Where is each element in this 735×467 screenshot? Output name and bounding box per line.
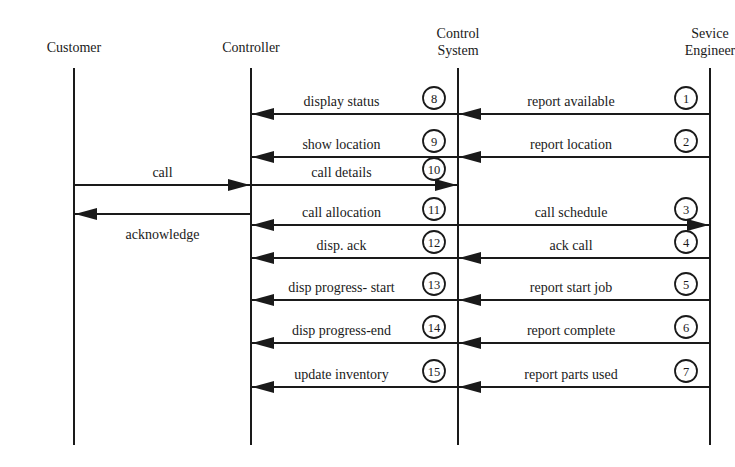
step-number: 8 <box>431 92 437 106</box>
arrowhead-icon <box>435 179 457 191</box>
message-label: report location <box>530 137 612 152</box>
arrowhead-icon <box>459 381 481 393</box>
message-label: show location <box>302 137 380 152</box>
arrowhead-icon <box>252 151 274 163</box>
message-label: ack call <box>549 238 592 253</box>
step-number: 4 <box>683 236 690 250</box>
message-label: acknowledge <box>126 227 200 242</box>
message-call: call <box>74 165 251 191</box>
actor-label-control_system: System <box>437 43 478 58</box>
message-label: disp progress- start <box>288 280 395 295</box>
message-11: call allocation11 <box>251 198 458 231</box>
message-15: update inventory15 <box>251 360 458 393</box>
step-number: 3 <box>683 203 689 217</box>
message-label: call allocation <box>302 205 381 220</box>
step-number: 14 <box>428 321 441 335</box>
arrowhead-icon <box>252 219 274 231</box>
message-label: report parts used <box>524 367 617 382</box>
message-10: call details10 <box>251 158 458 191</box>
arrowhead-icon <box>75 208 97 220</box>
step-number: 2 <box>683 135 689 149</box>
messages-layer: report available1report location2call sc… <box>74 87 710 393</box>
arrowhead-icon <box>252 381 274 393</box>
actor-label-controller: Controller <box>222 40 280 55</box>
arrowhead-icon <box>228 179 250 191</box>
message-acknowledge: acknowledge <box>74 208 251 242</box>
message-label: report start job <box>530 280 612 295</box>
actor-label-service_engineer: Sevice <box>691 26 728 41</box>
message-2: report location2 <box>458 130 710 163</box>
message-5: report start job5 <box>458 273 710 306</box>
message-9: show location9 <box>251 130 458 163</box>
message-label: call <box>152 165 172 180</box>
message-8: display status8 <box>251 87 458 120</box>
message-label: update inventory <box>294 367 388 382</box>
actor-label-service_engineer: Engineer <box>685 43 735 58</box>
step-number: 7 <box>683 365 689 379</box>
message-6: report complete6 <box>458 316 710 349</box>
arrowhead-icon <box>252 337 274 349</box>
step-number: 9 <box>431 135 437 149</box>
step-number: 12 <box>428 236 441 250</box>
step-number: 13 <box>428 278 441 292</box>
message-label: call details <box>311 165 371 180</box>
message-label: report available <box>527 94 614 109</box>
step-number: 11 <box>428 203 440 217</box>
message-label: display status <box>304 94 380 109</box>
arrowhead-icon <box>459 108 481 120</box>
step-number: 10 <box>428 163 441 177</box>
arrowhead-icon <box>252 108 274 120</box>
sequence-diagram: CustomerControllerControlSystemSeviceEng… <box>0 0 735 467</box>
message-3: call schedule3 <box>458 198 710 231</box>
actors-layer: CustomerControllerControlSystemSeviceEng… <box>47 26 735 58</box>
message-label: call schedule <box>535 205 608 220</box>
message-4: ack call4 <box>458 231 710 264</box>
step-number: 6 <box>683 321 689 335</box>
step-number: 1 <box>683 92 689 106</box>
arrowhead-icon <box>687 219 709 231</box>
message-14: disp progress-end14 <box>251 316 458 349</box>
arrowhead-icon <box>459 337 481 349</box>
actor-label-control_system: Control <box>437 26 480 41</box>
step-number: 15 <box>428 365 441 379</box>
arrowhead-icon <box>252 252 274 264</box>
message-13: disp progress- start13 <box>251 273 458 306</box>
arrowhead-icon <box>252 294 274 306</box>
message-7: report parts used7 <box>458 360 710 393</box>
message-1: report available1 <box>458 87 710 120</box>
lifelines-layer <box>74 68 710 445</box>
step-number: 5 <box>683 278 689 292</box>
message-label: report complete <box>527 323 615 338</box>
actor-label-customer: Customer <box>47 40 102 55</box>
arrowhead-icon <box>459 252 481 264</box>
message-12: disp. ack12 <box>251 231 458 264</box>
message-label: disp. ack <box>317 238 367 253</box>
arrowhead-icon <box>459 294 481 306</box>
arrowhead-icon <box>459 151 481 163</box>
message-label: disp progress-end <box>292 323 391 338</box>
